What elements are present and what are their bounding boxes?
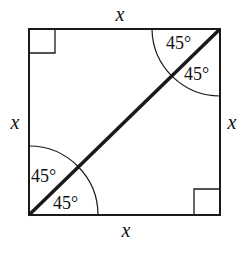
diagonal-line [29,29,220,215]
right-angle-marker-top-left [29,29,55,53]
side-label-right: x [227,111,237,133]
side-label-top: x [115,3,125,25]
square-diagram: x x x x 45° 45° 45° 45° [0,0,247,253]
angle-label-bottom-left-upper: 45° [31,166,56,186]
right-angle-marker-bottom-right [194,189,220,215]
angle-label-top-right-lower: 45° [184,64,209,84]
side-label-bottom: x [121,219,131,241]
angle-label-bottom-left-lower: 45° [53,193,78,213]
side-label-left: x [10,111,20,133]
angle-label-top-right-upper: 45° [166,33,191,53]
